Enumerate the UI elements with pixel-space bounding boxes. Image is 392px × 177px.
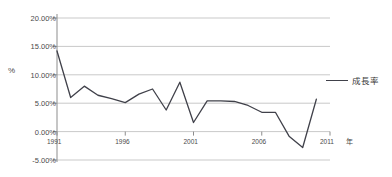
series-lines [57,51,316,148]
x-axis-tick-label: 1991 [47,138,61,145]
plot-area [0,0,392,177]
growth-rate-line-chart: % 20.00%15.00%10.00%5.00%0.00%-5.00% 199… [0,0,392,177]
y-axis-tick-label: -5.00% [32,156,56,165]
series-line-growth-rate [57,51,316,148]
y-axis-tick-label: 20.00% [31,14,56,23]
x-axis-unit-label: 年 [346,136,353,146]
y-axis-tick-label: 0.00% [35,127,56,136]
x-axis-tick-label: 1996 [115,138,129,145]
legend-label-growth-rate: 成長率 [352,74,379,86]
y-axis-tick-label: 10.00% [31,70,56,79]
x-axis-tick-label: 2006 [252,138,266,145]
legend-line-swatch [326,80,348,81]
x-axis-tick-label: 2001 [184,138,198,145]
y-axis-tick-label: 5.00% [35,99,56,108]
chart-legend: 成長率 [326,74,379,86]
x-axis-tick-label: 2011 [320,138,334,145]
y-axis-tick-label: 15.00% [31,42,56,51]
